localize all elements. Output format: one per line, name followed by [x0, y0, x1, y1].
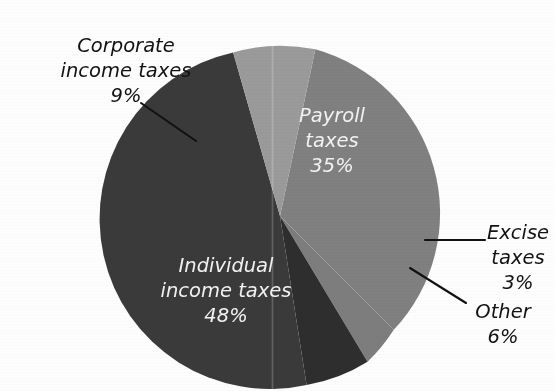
pie-label-corporate-line1: Corporate: [77, 34, 174, 57]
pie-label-other-line1: Other: [475, 300, 532, 323]
pie-label-other-value: 6%: [488, 325, 519, 348]
pie-chart-figure: Corporate income taxes 9% Excise taxes 3…: [0, 0, 554, 391]
pie-label-excise-value: 3%: [503, 271, 534, 294]
pie-label-corporate-line2: income taxes: [61, 59, 192, 82]
pie-label-other: Other 6%: [475, 300, 532, 348]
pie-label-individual-line1: Individual: [179, 254, 275, 277]
pie-label-payroll-line2: taxes: [305, 129, 358, 152]
pie-label-excise-line1: Excise: [487, 221, 549, 244]
pie-label-payroll-line1: Payroll: [299, 104, 366, 127]
pie-label-corporate-value: 9%: [111, 84, 142, 107]
pie-label-excise-line2: taxes: [491, 246, 544, 269]
pie-chart-canvas: Corporate income taxes 9% Excise taxes 3…: [0, 0, 554, 391]
pie-label-payroll-value: 35%: [310, 154, 353, 177]
pie-label-excise-taxes: Excise taxes 3%: [487, 221, 549, 294]
pie-label-individual-value: 48%: [204, 304, 247, 327]
pie-label-individual-line2: income taxes: [161, 279, 292, 302]
